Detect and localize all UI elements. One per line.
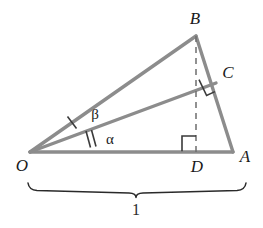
segment-OC — [30, 83, 216, 152]
vertex-label-D: D — [190, 157, 204, 176]
length-label: 1 — [132, 201, 140, 218]
segment-BA — [196, 36, 233, 152]
vertex-label-C: C — [222, 63, 234, 82]
diagram-canvas: β α O A B C D 1 — [0, 0, 263, 228]
length-brace — [28, 183, 246, 198]
angle-label-alpha: α — [106, 131, 114, 147]
geometry-figure: β α O A B C D 1 — [0, 0, 263, 228]
vertex-label-A: A — [239, 147, 251, 166]
triangle-edges — [30, 36, 233, 152]
angle-tick-alpha — [86, 130, 96, 148]
right-angle-marker-D — [182, 136, 196, 151]
vertex-label-O: O — [16, 156, 28, 175]
vertex-label-B: B — [190, 9, 201, 28]
angle-label-beta: β — [91, 106, 99, 122]
